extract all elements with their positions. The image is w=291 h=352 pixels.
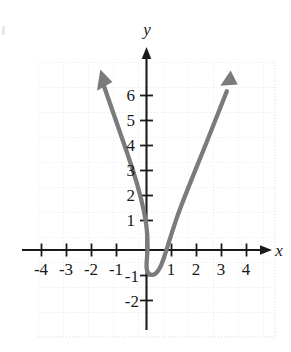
y-tick-label: 4 bbox=[127, 136, 136, 155]
y-tick-label: 1 bbox=[127, 211, 136, 230]
y-tick-label: 2 bbox=[127, 186, 136, 205]
y-tick-label: 6 bbox=[127, 86, 136, 105]
y-tick-label: 5 bbox=[127, 111, 136, 130]
y-tick-label: 3 bbox=[127, 161, 136, 180]
x-axis-label: x bbox=[274, 241, 283, 260]
graph-figure: y x -4 -3 -2 -1 1 2 3 4 6 5 4 3 2 1 -1 -… bbox=[0, 0, 291, 352]
x-tick-label: 2 bbox=[192, 260, 201, 279]
coordinate-plane: y x -4 -3 -2 -1 1 2 3 4 6 5 4 3 2 1 -1 -… bbox=[0, 0, 291, 352]
y-axis-label: y bbox=[141, 20, 151, 39]
y-tick-label: -2 bbox=[125, 292, 139, 311]
x-tick-label: -3 bbox=[59, 260, 73, 279]
x-tick-label: -2 bbox=[84, 260, 98, 279]
grid-lines bbox=[38, 62, 275, 337]
x-tick-label: -4 bbox=[34, 260, 49, 279]
x-tick-label: 4 bbox=[242, 260, 251, 279]
y-tick-label: -1 bbox=[125, 267, 139, 286]
x-tick-label: -1 bbox=[109, 260, 123, 279]
x-tick-label: 1 bbox=[167, 260, 176, 279]
x-tick-label: 3 bbox=[217, 260, 226, 279]
